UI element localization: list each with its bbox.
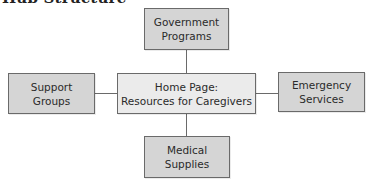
- diagram-title: Hub Structure: [2, 0, 126, 7]
- node-label: Support Groups: [31, 80, 73, 108]
- node-label: Emergency Services: [292, 78, 351, 106]
- hub-home-page: Home Page: Resources for Caregivers: [117, 73, 256, 114]
- node-support-groups: Support Groups: [8, 73, 95, 114]
- connector-hub-bottom: [186, 113, 187, 136]
- node-emergency-services: Emergency Services: [278, 72, 365, 112]
- connector-hub-left: [94, 93, 117, 94]
- hub-label: Home Page: Resources for Caregivers: [121, 80, 252, 108]
- node-label: Government Programs: [154, 15, 219, 43]
- node-medical-supplies: Medical Supplies: [144, 136, 230, 178]
- node-label: Medical Supplies: [165, 143, 209, 171]
- node-government-programs: Government Programs: [144, 8, 229, 50]
- connector-hub-right: [255, 93, 278, 94]
- connector-hub-top: [186, 49, 187, 73]
